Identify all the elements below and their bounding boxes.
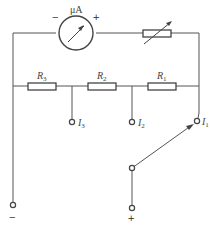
label-r1: R1	[156, 70, 167, 83]
resistor-r3	[28, 83, 56, 90]
selector-switch-icon[interactable]	[132, 124, 194, 168]
resistor-r1	[148, 83, 176, 90]
label-i3: I3	[77, 117, 85, 130]
wire-tap-i1	[198, 113, 199, 118]
meter-label: μA	[70, 4, 83, 15]
switch-pivot-terminal[interactable]	[129, 165, 134, 170]
negative-sign: −	[9, 211, 15, 223]
terminal-positive[interactable]	[129, 205, 134, 210]
label-i1: I1	[201, 116, 209, 129]
terminal-i3[interactable]	[69, 119, 74, 124]
positive-sign: +	[128, 212, 134, 224]
label-i2: I2	[137, 117, 145, 130]
circuit-diagram: μA − + R3 R2 R1 I3 I2 I1 − +	[0, 0, 212, 226]
variable-resistor-icon	[143, 21, 172, 44]
label-r2: R2	[96, 70, 107, 83]
terminal-i1[interactable]	[194, 118, 199, 123]
resistor-r2	[88, 83, 116, 90]
label-r3: R3	[36, 70, 47, 83]
meter-minus-sign: −	[52, 11, 58, 23]
terminal-negative[interactable]	[10, 202, 15, 207]
terminal-i2[interactable]	[129, 119, 134, 124]
microammeter-icon	[59, 16, 93, 50]
meter-plus-sign: +	[93, 11, 99, 23]
